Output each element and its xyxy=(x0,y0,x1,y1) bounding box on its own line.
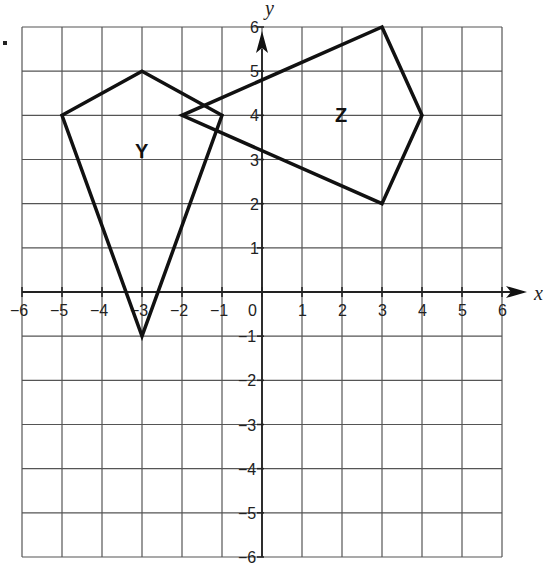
x-axis-label: x xyxy=(533,282,543,304)
x-tick-label: 0 xyxy=(248,302,257,319)
y-tick-label: −1 xyxy=(238,328,256,345)
question-marker-dot xyxy=(3,41,7,45)
x-tick-label: 5 xyxy=(458,302,467,319)
y-tick-label: −5 xyxy=(238,505,256,522)
x-tick-label: −4 xyxy=(90,302,108,319)
x-tick-label: −2 xyxy=(170,302,188,319)
x-tick-label: 4 xyxy=(418,302,427,319)
shape-label-y: Y xyxy=(135,140,149,162)
y-tick-label: 5 xyxy=(250,63,259,80)
y-tick-label: 4 xyxy=(250,107,259,124)
x-tick-label: −5 xyxy=(50,302,68,319)
x-tick-label: 2 xyxy=(338,302,347,319)
x-tick-label: 1 xyxy=(298,302,307,319)
y-tick-label: 6 xyxy=(250,19,259,36)
y-tick-label: 3 xyxy=(250,152,259,169)
y-tick-label: 2 xyxy=(250,196,259,213)
y-tick-label: −6 xyxy=(238,549,256,566)
x-tick-label: 3 xyxy=(378,302,387,319)
y-tick-label: −2 xyxy=(238,372,256,389)
y-axis-label: y xyxy=(263,0,274,20)
y-tick-label: 1 xyxy=(250,240,259,257)
coordinate-grid-figure: xy−6−5−4−3−2−10123456654321−1−2−3−4−5−6Y… xyxy=(0,0,549,572)
shape-label-z: Z xyxy=(335,104,347,126)
y-tick-label: −4 xyxy=(238,461,256,478)
coordinate-plane: xy−6−5−4−3−2−10123456654321−1−2−3−4−5−6Y… xyxy=(0,0,549,572)
x-tick-label: −6 xyxy=(10,302,28,319)
x-tick-label: −1 xyxy=(210,302,228,319)
y-tick-label: −3 xyxy=(238,417,256,434)
x-tick-label: 6 xyxy=(498,302,507,319)
